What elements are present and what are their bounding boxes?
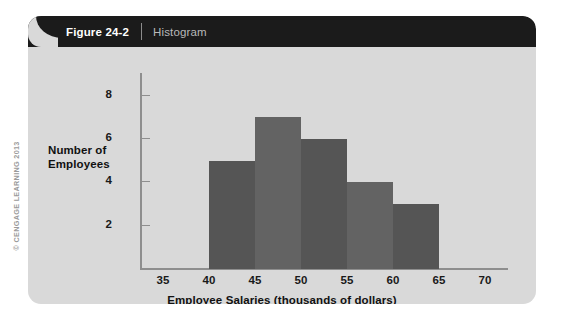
header-divider [141, 23, 142, 40]
y-axis-tick [142, 95, 150, 96]
y-axis-tick-label: 2 [88, 219, 112, 231]
x-axis-title: Employee Salaries (thousands of dollars) [28, 294, 536, 304]
x-axis-tick-label: 35 [148, 275, 178, 287]
y-axis-title-line-1: Number of [48, 143, 138, 157]
y-axis-tick-label-text: 2 [88, 219, 112, 231]
y-axis-tick [142, 138, 150, 139]
x-axis-tick-label: 45 [240, 275, 270, 287]
copyright-notice: © CENGAGE LEARNING 2013 [12, 131, 21, 251]
y-axis-tick-label-text: 4 [88, 175, 112, 187]
x-axis-tick-label: 40 [194, 275, 224, 287]
x-axis-tick-label: 70 [470, 275, 500, 287]
histogram-bar [393, 204, 439, 269]
histogram-bar [255, 117, 301, 269]
x-axis-tick-label: 50 [286, 275, 316, 287]
x-axis-tick-label: 65 [424, 275, 454, 287]
y-axis-tick-label: 6 [88, 132, 112, 144]
histogram-bar [347, 182, 393, 269]
y-axis-tick [142, 181, 150, 182]
figure-header-text: Figure 24-2 Histogram [28, 16, 207, 47]
figure-panel: Figure 24-2 Histogram Number of Employee… [28, 16, 536, 304]
y-axis-tick [142, 225, 150, 226]
histogram-chart: Number of Employees 2468 354045505560657… [28, 47, 536, 304]
y-axis-line [140, 73, 142, 270]
y-axis-title-line-2: Employees [48, 157, 138, 171]
y-axis-tick-label-text: 6 [88, 132, 112, 144]
x-axis-tick-label: 60 [378, 275, 408, 287]
figure-number-label: Figure 24-2 [66, 26, 129, 38]
y-axis-tick-label: 8 [88, 89, 112, 101]
x-axis-tick-label: 55 [332, 275, 362, 287]
y-axis-tick-label-text: 8 [88, 89, 112, 101]
y-axis-tick-label: 4 [88, 175, 112, 187]
histogram-bar [209, 161, 255, 269]
y-axis-title: Number of Employees [48, 143, 138, 172]
histogram-bar [301, 139, 347, 269]
figure-caption-label: Histogram [153, 26, 207, 38]
